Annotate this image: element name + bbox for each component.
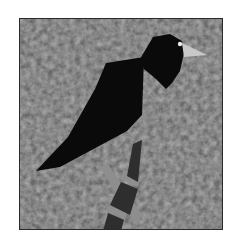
quilt-block-frame (19, 18, 223, 230)
eye (178, 42, 182, 46)
bird-illustration (20, 19, 223, 230)
